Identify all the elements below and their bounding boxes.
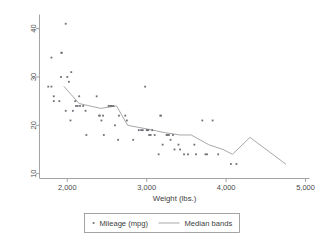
data-point-marker (85, 134, 87, 136)
data-point-marker (66, 76, 68, 78)
data-point-marker (160, 115, 162, 117)
x-axis-title: Weight (lbs.) (153, 194, 197, 203)
data-point-marker (96, 95, 98, 97)
data-point-marker (142, 129, 144, 131)
data-point-marker (217, 153, 219, 155)
data-point-marker (174, 149, 176, 151)
data-point-marker (70, 71, 72, 73)
y-tick-label: 20 (29, 121, 38, 129)
data-point-marker (72, 110, 74, 112)
data-point-marker (178, 144, 180, 146)
data-point-marker (78, 95, 80, 97)
y-tick-label: 40 (29, 24, 38, 32)
data-point-marker (53, 95, 55, 97)
chart-figure: 102030402,0003,0004,0005,000Weight (lbs.… (0, 0, 321, 249)
data-point-marker (168, 134, 170, 136)
legend-marker-mileage (93, 222, 95, 224)
data-point-marker (75, 105, 77, 107)
data-point-marker (85, 110, 87, 112)
data-point-marker (162, 144, 164, 146)
data-point-marker (201, 120, 203, 122)
data-point-marker (205, 153, 207, 155)
data-point-marker (70, 120, 72, 122)
data-point-marker (108, 105, 110, 107)
data-point-marker (140, 129, 142, 131)
data-point-marker (53, 100, 55, 102)
data-point-marker (61, 52, 63, 54)
data-point-marker (65, 23, 67, 25)
y-tick-label: 30 (29, 73, 38, 81)
legend-label-median-bands: Median bands (185, 219, 233, 228)
data-point-marker (150, 134, 152, 136)
data-point-marker (111, 105, 113, 107)
data-point-marker (114, 124, 116, 126)
data-point-marker (144, 86, 146, 88)
data-point-marker (68, 81, 70, 83)
x-tick-label: 3,000 (137, 183, 156, 192)
data-point-marker (158, 153, 160, 155)
data-point-marker (99, 115, 101, 117)
x-tick-label: 5,000 (296, 183, 315, 192)
data-point-marker (124, 115, 126, 117)
data-point-marker (101, 120, 103, 122)
data-point-marker (109, 105, 111, 107)
data-point-marker (183, 153, 185, 155)
data-point-marker (206, 153, 208, 155)
x-tick-label: 2,000 (58, 183, 77, 192)
data-point-marker (79, 105, 81, 107)
data-point-marker (147, 129, 149, 131)
data-point-marker (172, 134, 174, 136)
data-point-marker (60, 76, 62, 78)
data-point-marker (138, 129, 140, 131)
data-point-marker (166, 134, 168, 136)
data-point-marker (102, 115, 104, 117)
data-point-marker (51, 57, 53, 59)
data-point-marker (112, 105, 114, 107)
data-point-marker (65, 110, 67, 112)
data-point-marker (170, 139, 172, 141)
data-point-marker (58, 100, 60, 102)
data-point-marker (77, 105, 79, 107)
data-point-marker (236, 163, 238, 165)
data-point-marker (187, 153, 189, 155)
data-point-marker (117, 139, 119, 141)
scatter-plot-svg: 102030402,0003,0004,0005,000Weight (lbs.… (0, 0, 321, 249)
data-point-marker (154, 134, 156, 136)
data-point-marker (195, 153, 197, 155)
data-point-marker (51, 86, 53, 88)
data-point-marker (179, 149, 181, 151)
data-point-marker (103, 134, 105, 136)
data-point-marker (148, 134, 150, 136)
data-point-marker (126, 120, 128, 122)
data-point-marker (193, 144, 195, 146)
x-tick-label: 4,000 (217, 183, 236, 192)
data-point-marker (118, 115, 120, 117)
legend-label-mileage: Mileage (mpg) (100, 219, 149, 228)
data-point-marker (47, 86, 49, 88)
data-point-marker (230, 163, 232, 165)
data-point-marker (212, 120, 214, 122)
data-point-marker (74, 100, 76, 102)
median-bands-line (64, 87, 286, 164)
data-point-marker (151, 129, 153, 131)
data-point-marker (82, 105, 84, 107)
y-tick-label: 10 (29, 169, 38, 177)
data-point-marker (132, 139, 134, 141)
